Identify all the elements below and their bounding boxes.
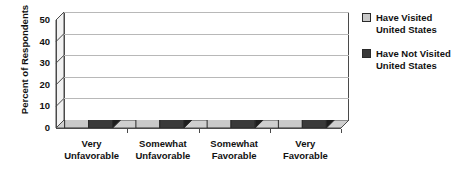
legend-label-line2: United States	[376, 60, 462, 72]
y-axis-tick: 0	[32, 123, 50, 133]
y-axis-tick-label: 40	[34, 37, 50, 47]
legend-entry[interactable]: Have Not VisitedUnited States	[362, 48, 462, 72]
x-axis-category-label-line: Very	[262, 138, 349, 150]
y-axis-tick: 30	[32, 58, 50, 68]
gridline	[64, 55, 349, 56]
gridline	[64, 12, 349, 13]
legend-swatch-icon	[362, 49, 371, 58]
y-axis-tick: 50	[32, 15, 50, 25]
y-axis-tick: 40	[32, 37, 50, 47]
y-axis-tick: 20	[32, 80, 50, 90]
y-axis-tick-label: 10	[34, 101, 50, 111]
x-axis-category-label: VeryFavorable	[262, 138, 349, 162]
y-axis-tick-label: 0	[34, 123, 50, 133]
x-axis-tick	[199, 129, 200, 133]
legend-entry[interactable]: Have VisitedUnited States	[362, 12, 462, 36]
chart-legend: Have VisitedUnited StatesHave Not Visite…	[362, 12, 462, 84]
gridline	[64, 77, 349, 78]
y-axis-tick-label: 20	[34, 80, 50, 90]
chart-back-wall	[64, 12, 349, 120]
legend-label-line2: United States	[376, 24, 462, 36]
y-axis-tick-label: 30	[34, 58, 50, 68]
x-axis-tick	[341, 129, 342, 133]
x-axis-tick	[270, 129, 271, 133]
gridline	[64, 98, 349, 99]
legend-label-line1: Have Visited	[376, 12, 462, 24]
legend-swatch-icon	[362, 13, 371, 22]
bar-chart: Percent of Respondents 01020304050VeryUn…	[0, 0, 462, 169]
legend-label-line1: Have Not Visited	[376, 48, 462, 60]
x-axis-category-label-line: Favorable	[262, 150, 349, 162]
y-axis-tick: 10	[32, 101, 50, 111]
x-axis-tick	[127, 129, 128, 133]
y-axis-tick-label: 50	[34, 15, 50, 25]
y-axis-line	[56, 20, 57, 128]
gridline	[64, 34, 349, 35]
